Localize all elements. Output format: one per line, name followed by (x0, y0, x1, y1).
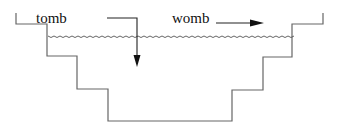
stepped-basin-outline (16, 13, 323, 121)
womb-arrowhead-right-icon (250, 20, 264, 27)
tomb-label: tomb (36, 11, 67, 26)
womb-label: womb (172, 11, 210, 26)
water-surface-waves (48, 36, 294, 38)
tomb-arrowhead-down-icon (134, 55, 141, 67)
